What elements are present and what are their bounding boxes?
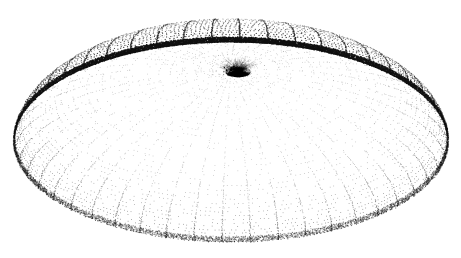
figure-container: Stippled dome surface with polar grid A … bbox=[0, 0, 461, 258]
dome-surface-plot bbox=[0, 0, 461, 258]
